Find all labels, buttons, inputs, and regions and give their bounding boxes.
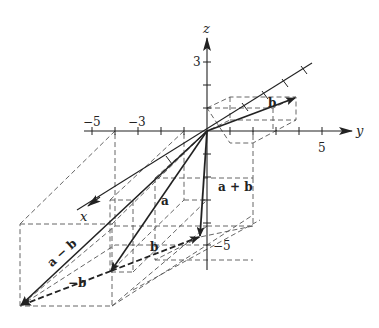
label-a: a	[161, 195, 169, 207]
vectors	[21, 98, 295, 305]
x-axis-label: x	[80, 210, 87, 223]
axes	[77, 38, 352, 270]
diagram-canvas	[0, 0, 379, 328]
label-b-translated: b	[150, 241, 158, 253]
y-axis-label: y	[356, 124, 363, 137]
vector-a	[111, 131, 207, 271]
y-tick-5: 5	[318, 142, 326, 154]
y-tick-minus-3: −3	[128, 116, 146, 128]
x-axis-line	[77, 63, 312, 210]
vector-a-minus-b	[21, 131, 207, 305]
y-tick-minus-5: −5	[83, 116, 101, 128]
vector-neg-b-translated	[22, 271, 111, 305]
z-tick-minus-5: −5	[213, 240, 231, 252]
vector-a-plus-b	[200, 131, 207, 236]
vector-diagram: z y x 3 −5 5 −5 −3 b a a + b a − b b −b	[0, 0, 379, 328]
label-b: b	[268, 97, 276, 109]
label-neg-b: −b	[68, 277, 86, 289]
label-a-plus-b: a + b	[218, 181, 253, 193]
vector-b	[207, 98, 295, 131]
z-axis-label: z	[203, 22, 210, 35]
z-tick-3: 3	[193, 56, 201, 68]
